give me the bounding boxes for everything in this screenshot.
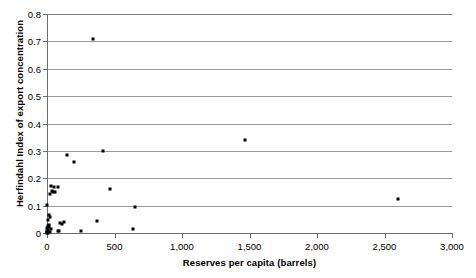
data-point [102, 149, 105, 152]
y-tick-label: 0.4 [28, 118, 41, 129]
data-point [80, 230, 83, 233]
gridline [47, 96, 452, 97]
data-point [48, 193, 51, 196]
x-tick-label: 0 [44, 241, 49, 252]
x-tick-mark [452, 233, 453, 238]
data-point [131, 228, 134, 231]
data-point [46, 232, 49, 235]
x-tick-label: 1,000 [170, 241, 194, 252]
gridline [47, 151, 452, 152]
gridline [47, 69, 452, 70]
data-point [46, 218, 49, 221]
data-point [57, 186, 60, 189]
data-point [46, 204, 49, 207]
x-axis-line [47, 233, 452, 234]
x-tick-label: 500 [107, 241, 123, 252]
data-point [53, 186, 56, 189]
gridline [47, 124, 452, 125]
plot-area: 00.10.20.30.40.50.60.70.8 05001,0001,500… [47, 14, 452, 233]
gridline [47, 14, 452, 15]
y-tick-label: 0.6 [28, 63, 41, 74]
y-tick-label: 0.8 [28, 9, 41, 20]
x-tick-label: 2,500 [373, 241, 397, 252]
gridline [47, 206, 452, 207]
x-axis-title: Reserves per capita (barrels) [47, 257, 452, 268]
gridline [47, 41, 452, 42]
data-point [73, 160, 76, 163]
data-point [397, 197, 400, 200]
data-point [92, 37, 95, 40]
y-tick-label: 0 [36, 228, 41, 239]
y-tick-label: 0.1 [28, 200, 41, 211]
data-point [60, 222, 63, 225]
data-point [134, 205, 137, 208]
y-tick-label: 0.5 [28, 91, 41, 102]
x-tick-label: 3,000 [440, 241, 464, 252]
scatter-chart-figure: Herfindahl Index of export concentration… [0, 0, 476, 278]
data-point [108, 187, 111, 190]
y-tick-label: 0.7 [28, 36, 41, 47]
y-axis-title: Herfindahl Index of export concentration [14, 0, 25, 229]
data-point [58, 229, 61, 232]
data-point [243, 138, 246, 141]
data-point [95, 219, 98, 222]
gridline [47, 178, 452, 179]
x-tick-label: 2,000 [305, 241, 329, 252]
data-point [65, 153, 68, 156]
data-point [53, 191, 56, 194]
y-tick-label: 0.2 [28, 173, 41, 184]
y-axis-line [47, 14, 48, 234]
x-tick-label: 1,500 [238, 241, 262, 252]
y-tick-label: 0.3 [28, 145, 41, 156]
